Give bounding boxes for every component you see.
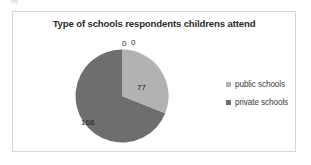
pie-data-label-zero-b: 0 [131,39,135,47]
legend-label-public-schools: public schools [235,80,285,89]
legend-item-private-schools[interactable]: private schools [226,98,298,107]
chart-legend: public schools private schools [226,80,298,116]
pie-data-label-zero-a: 0 [122,40,126,48]
legend-label-private-schools: private schools [235,98,288,107]
pie-data-label-private-schools: 168 [81,119,94,127]
pie-plot-area: 0 0 77 168 [61,38,169,142]
pie-data-label-public-schools: 77 [137,84,146,92]
legend-swatch-icon-private-schools [226,100,231,105]
chart-title: Type of schools respondents childrens at… [13,18,295,29]
pie-chart-svg [75,49,169,143]
chart-frame: Type of schools respondents childrens at… [12,11,296,152]
legend-swatch-icon-public-schools [226,82,231,87]
scan-artifact [11,0,18,5]
legend-item-public-schools[interactable]: public schools [226,80,298,89]
